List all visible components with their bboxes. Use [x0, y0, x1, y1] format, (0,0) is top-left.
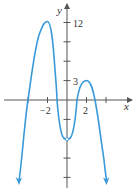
- x-axis-label: x: [123, 100, 129, 112]
- y-tick-label-12: 12: [73, 18, 83, 29]
- function-graph: y x 12 3 −2 2: [0, 0, 138, 190]
- y-tick-label-3: 3: [73, 76, 78, 87]
- function-curve: [19, 21, 107, 181]
- local-min-point: [65, 138, 68, 141]
- x-tick-label-neg2: −2: [40, 105, 51, 116]
- y-axis-label: y: [56, 4, 62, 16]
- x-tick-label-2: 2: [83, 105, 88, 116]
